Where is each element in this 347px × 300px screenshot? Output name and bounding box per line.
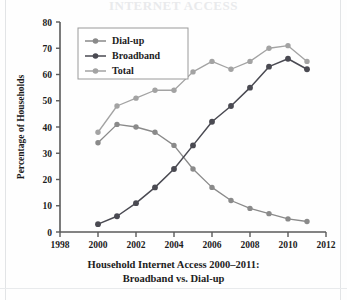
y-axis-tick-label: 40 [43,123,53,133]
data-point [152,184,158,190]
legend-label: Total [112,65,134,76]
caption-line-1: Household Internet Access 2000–2011: [0,258,347,272]
y-axis-tick-label: 80 [43,18,53,28]
caption-line-2: Broadband vs. Dial-up [0,272,347,286]
legend-marker [93,68,99,74]
legend-label: Broadband [112,50,161,61]
y-axis-tick-label: 70 [43,44,53,54]
data-point [285,216,290,221]
x-axis-tick-label: 1998 [51,240,70,250]
data-point [133,95,138,100]
y-axis-tick-label: 10 [43,201,53,211]
data-point [266,211,271,216]
figure-title: INTERNET ACCESS [0,0,347,14]
data-point [266,46,271,51]
x-axis-tick-label: 2012 [317,240,336,250]
x-axis-tick-label: 2002 [127,240,146,250]
line-chart-svg: 0102030405060708019982000200220042006200… [0,14,347,254]
data-point [247,206,252,211]
data-point [228,198,233,203]
x-axis-tick-label: 2010 [279,240,298,250]
page-border-bottom [0,288,347,289]
chart-figure: INTERNET ACCESS 010203040506070801998200… [0,0,347,300]
data-point [171,88,176,93]
data-point [247,59,252,64]
data-point [152,88,157,93]
data-point [152,130,157,135]
data-point [133,124,138,129]
data-point [228,67,233,72]
legend-marker [93,53,99,59]
data-point [209,59,214,64]
y-axis-tick-label: 0 [47,228,52,238]
data-point [171,166,177,172]
legend-marker [93,38,99,44]
y-axis-tick-label: 20 [43,175,53,185]
data-point [304,59,309,64]
y-axis-label: Percentage of Households [16,75,26,180]
data-point [114,213,120,219]
data-point [171,143,176,148]
figure-caption: Household Internet Access 2000–2011: Bro… [0,258,347,286]
data-point [209,185,214,190]
data-point [133,200,139,206]
legend-label: Dial-up [112,35,145,46]
x-axis-tick-label: 2008 [241,240,260,250]
y-axis-tick-label: 60 [43,70,53,80]
y-axis-tick-label: 30 [43,149,53,159]
data-point [95,130,100,135]
x-axis-tick-label: 2004 [165,240,184,250]
data-point [285,43,290,48]
data-point [209,119,215,125]
data-point [190,142,196,148]
data-point [95,140,100,145]
series-broadband [95,56,310,227]
data-point [114,122,119,127]
data-point [190,166,195,171]
data-point [228,103,234,109]
data-point [285,56,291,62]
data-point [114,103,119,108]
x-axis-tick-label: 2006 [203,240,222,250]
x-axis-tick-label: 2000 [89,240,108,250]
legend: Dial-upBroadbandTotal [78,28,188,79]
data-point [95,221,101,227]
series-line [98,59,307,224]
data-point [266,64,272,70]
data-point [304,219,309,224]
y-axis-tick-label: 50 [43,96,53,106]
data-point [304,66,310,72]
data-point [190,69,195,74]
data-point [247,85,253,91]
plot-area: 0102030405060708019982000200220042006200… [0,14,347,254]
